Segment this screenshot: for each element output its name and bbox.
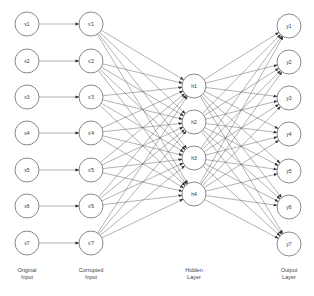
node-label: x1 (24, 21, 30, 27)
node-h4: h4 (182, 182, 206, 206)
node-label: y7 (286, 241, 292, 247)
edge-xc4-h4 (101, 139, 183, 188)
layer-label-original: OriginalInput (18, 267, 37, 280)
edge-xc6-h3 (102, 163, 183, 201)
layer-label-line: Layer (187, 274, 201, 280)
edge-h3-y5 (206, 160, 277, 170)
layer-label-line: Input (21, 274, 34, 280)
edge-xc1-h3 (98, 34, 186, 149)
network-canvas: x1x2x3x4x5x6x7x'1x'2x'3x'4x'5x'6x'7h1h2h… (0, 0, 314, 296)
layer-labels-group: OriginalInputCorruptedInputHiddenLayerOu… (18, 267, 298, 280)
node-label: y6 (286, 204, 292, 210)
layer-label-output: OutputLayer (281, 267, 298, 280)
node-x2: x2 (15, 49, 39, 73)
edge-xc4-h1 (102, 91, 183, 128)
node-y2: y2 (277, 50, 301, 74)
node-label: y2 (286, 59, 292, 65)
node-y4: y4 (277, 122, 301, 146)
node-label: x5 (24, 167, 30, 173)
node-label: h2 (191, 119, 197, 125)
node-x6: x6 (15, 194, 39, 218)
edge-xc6-h2 (100, 130, 184, 199)
layer-label-line: Corrupted (79, 267, 103, 273)
edge-xc4-h2 (103, 123, 182, 131)
node-x7: x7 (15, 231, 39, 255)
node-label: x'6 (88, 203, 94, 209)
edge-h4-y7 (205, 200, 279, 239)
node-x5: x5 (15, 158, 39, 182)
node-xc7: x'7 (79, 231, 103, 255)
node-xc4: x'4 (79, 121, 103, 145)
edge-h4-y3 (202, 107, 280, 186)
edge-h3-y7 (203, 166, 280, 236)
edge-h4-y5 (206, 174, 278, 191)
node-h2: h2 (182, 110, 206, 134)
node-label: x6 (24, 203, 30, 209)
node-label: y3 (286, 95, 292, 101)
node-h3: h3 (182, 146, 206, 170)
node-label: y4 (286, 131, 292, 137)
node-label: y5 (286, 168, 292, 174)
node-x3: x3 (15, 85, 39, 109)
node-y6: y6 (277, 195, 301, 219)
node-label: h4 (191, 191, 197, 197)
edge-xc7-h4 (102, 199, 183, 238)
edge-h2-y5 (205, 128, 279, 166)
node-label: x3 (24, 94, 30, 100)
layer-label-corrupted: CorruptedInput (79, 267, 103, 280)
node-x1: x1 (15, 12, 39, 36)
node-y3: y3 (277, 86, 301, 110)
layer-label-line: Output (281, 267, 298, 273)
node-h1: h1 (182, 74, 206, 98)
node-label: y1 (286, 23, 292, 29)
node-y5: y5 (277, 159, 301, 183)
layer-label-line: Hidden (185, 267, 202, 273)
node-label: x'3 (88, 94, 94, 100)
node-xc5: x'5 (79, 158, 103, 182)
edges-group (39, 24, 283, 243)
edge-xc5-h1 (100, 94, 184, 163)
edge-xc1-h1 (101, 30, 183, 80)
node-label: h1 (191, 83, 197, 89)
node-label: x2 (24, 58, 30, 64)
layer-label-line: Layer (282, 274, 296, 280)
node-label: x7 (24, 240, 30, 246)
edge-h2-y1 (202, 35, 280, 114)
node-label: x'1 (88, 21, 94, 27)
edge-xc7-h1 (98, 96, 188, 233)
node-y7: y7 (277, 232, 301, 256)
edge-xc4-h3 (103, 136, 183, 155)
node-x4: x4 (15, 121, 39, 145)
autoencoder-diagram: x1x2x3x4x5x6x7x'1x'2x'3x'4x'5x'6x'7h1h2h… (0, 0, 314, 296)
edge-xc6-h4 (103, 195, 182, 204)
node-label: x'4 (88, 130, 94, 136)
layer-label-hidden: HiddenLayer (185, 267, 202, 280)
layer-label-line: Original (18, 267, 37, 273)
node-label: x'2 (88, 58, 94, 64)
nodes-group: x1x2x3x4x5x6x7x'1x'2x'3x'4x'5x'6x'7h1h2h… (15, 12, 301, 256)
node-xc1: x'1 (79, 12, 103, 36)
edge-xc2-h1 (103, 64, 183, 83)
node-y1: y1 (277, 14, 301, 38)
edge-h4-y6 (206, 196, 277, 206)
node-label: h3 (191, 155, 197, 161)
node-label: x'5 (88, 167, 94, 173)
node-label: x4 (24, 130, 30, 136)
node-xc3: x'3 (79, 85, 103, 109)
node-xc2: x'2 (79, 49, 103, 73)
layer-label-line: Input (85, 274, 98, 280)
node-xc6: x'6 (79, 194, 103, 218)
edge-xc7-h3 (100, 166, 184, 236)
node-label: x'7 (88, 240, 94, 246)
